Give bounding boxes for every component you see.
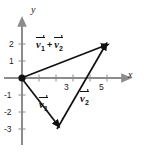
- vector-sum-label: v1+v2: [36, 35, 63, 52]
- x-tick-label-5: 5: [99, 83, 104, 92]
- y-tick-label-1: 1: [9, 57, 14, 66]
- vector-sum-v2-subscript: 2: [59, 45, 63, 52]
- vector-v1-letter: v: [39, 99, 44, 110]
- vector-sum-v2-symbol: v2: [54, 40, 63, 52]
- vector-v1-symbol: v1: [39, 100, 48, 112]
- vector-sum-v1-symbol: v1: [36, 40, 45, 52]
- plus-operator: +: [47, 40, 52, 50]
- vector-v2-subscript: 2: [85, 99, 89, 106]
- vector-v2-symbol: v2: [80, 94, 89, 106]
- vector-arrow-overbar-icon: [54, 37, 63, 38]
- vector-v2-letter: v: [80, 93, 85, 104]
- vector-plot-svg: [0, 0, 144, 153]
- y-tick-label-minus-1: -1: [4, 91, 12, 100]
- vector-v1-subscript: 1: [44, 105, 48, 112]
- vector-arrow-overbar-icon: [39, 97, 48, 98]
- vector-v2-label: v2: [80, 89, 89, 106]
- x-axis-label: x: [128, 70, 132, 80]
- origin-point: [18, 74, 25, 81]
- vector-arrow-overbar-icon: [36, 37, 45, 38]
- x-tick-label-3: 3: [64, 83, 69, 92]
- vector-addition-figure: y x 2 1 -1 -2 -3 3 5 v1+v2 v1 v2: [0, 0, 144, 153]
- y-tick-label-minus-3: -3: [4, 125, 12, 134]
- vector-arrow-overbar-icon: [80, 91, 89, 92]
- y-tick-label-2: 2: [9, 40, 14, 49]
- vector-sum-v1-subscript: 1: [41, 45, 45, 52]
- vector-v1-label: v1: [39, 95, 48, 112]
- vector-sum-v1-letter: v: [36, 39, 41, 50]
- y-axis-label: y: [31, 5, 35, 15]
- y-tick-label-minus-2: -2: [4, 108, 12, 117]
